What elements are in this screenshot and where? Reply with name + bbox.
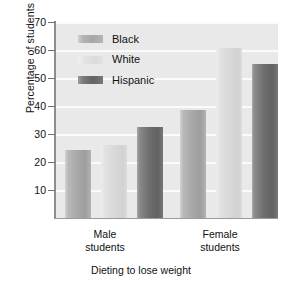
tick-mark-60 [48, 50, 55, 51]
tick-mark-20 [48, 162, 55, 163]
tick-label-40: 40 [6, 101, 46, 112]
tick-mark-50 [48, 78, 55, 79]
x-axis-title: Dieting to lose weight [0, 264, 282, 276]
category-label-male-line1: Male [50, 228, 160, 241]
plot-area: Black White Hispanic [56, 22, 278, 218]
bar-male-black[interactable] [65, 150, 91, 218]
tick-mark-10 [48, 190, 55, 191]
legend-item-hispanic[interactable]: Hispanic [78, 72, 154, 88]
bar-male-hispanic[interactable] [137, 127, 163, 218]
tick-mark-40 [48, 106, 55, 107]
bar-chart-figure: Percentage of students Black [0, 0, 282, 287]
bar-male-white[interactable] [101, 145, 127, 219]
tick-label-50: 50 [6, 73, 46, 84]
tick-mark-70 [48, 22, 55, 23]
tick-label-30: 30 [6, 129, 46, 140]
category-label-male-line2: students [50, 241, 160, 254]
tick-label-70: 70 [6, 17, 46, 28]
legend-item-white[interactable]: White [78, 52, 154, 68]
category-label-female-line1: Female [165, 228, 275, 241]
tick-label-20: 20 [6, 157, 46, 168]
tick-mark-30 [48, 134, 55, 135]
legend-label-white: White [112, 54, 140, 65]
category-label-male: Male students [50, 228, 160, 254]
legend-swatch-hispanic-icon [78, 76, 103, 84]
category-label-female-line2: students [165, 241, 275, 254]
legend: Black White Hispanic [78, 31, 154, 93]
bar-female-white[interactable] [216, 48, 242, 218]
tick-label-60: 60 [6, 45, 46, 56]
tick-label-10: 10 [6, 185, 46, 196]
category-label-female: Female students [165, 228, 275, 254]
legend-item-black[interactable]: Black [78, 31, 154, 47]
bar-female-hispanic[interactable] [252, 64, 278, 218]
legend-swatch-black-icon [78, 35, 103, 43]
legend-swatch-white-icon [78, 56, 103, 64]
legend-label-hispanic: Hispanic [112, 75, 154, 86]
bar-female-black[interactable] [180, 110, 206, 218]
legend-label-black: Black [112, 34, 139, 45]
